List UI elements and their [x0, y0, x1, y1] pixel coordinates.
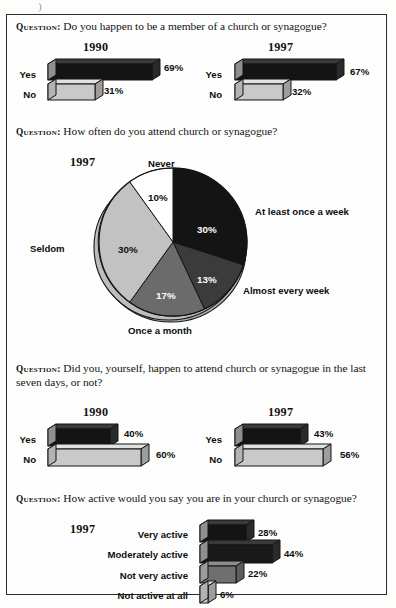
question-heading-frequency: Question: How often do you attend church…	[16, 125, 376, 139]
year-label-1997-lastsevendays: 1997	[268, 405, 293, 420]
question-text-1: Do you happen to be a member of a church…	[63, 20, 326, 32]
pie-value-never: 10%	[148, 192, 168, 203]
bar-chart-lastsevendays-1990	[38, 422, 198, 470]
bar-chart-membership-1997	[225, 58, 370, 104]
question-word-3: Question:	[16, 364, 61, 374]
bar-value-moderately-active: 44%	[284, 548, 303, 559]
scan-artifact: )	[38, 0, 52, 10]
question-heading-activity: Question: How active would you say you a…	[16, 492, 378, 506]
question-word-4: Question:	[16, 494, 61, 504]
bar-label-yes-membership-1997: Yes	[196, 69, 222, 80]
bar-value-not-active-at-all: 6%	[220, 589, 234, 600]
year-label-1990-lastsevendays: 1990	[83, 405, 108, 420]
bar-label-not-very-active: Not very active	[70, 570, 188, 581]
question-word-1: Question:	[16, 22, 61, 32]
pie-value-almost-every-week: 13%	[197, 274, 217, 285]
question-text-4: How active would you say you are in your…	[63, 492, 356, 504]
year-label-1997-membership: 1997	[268, 40, 293, 55]
bar-label-no-lastsevendays-1997: No	[196, 454, 222, 465]
question-text-3: Did you, yourself, happen to attend chur…	[16, 362, 366, 388]
bar-label-yes-lastsevendays-1990: Yes	[10, 434, 36, 445]
bar-value-no-membership-1997: 32%	[292, 86, 311, 97]
bar-label-yes-lastsevendays-1997: Yes	[196, 434, 222, 445]
pie-label-seldom: Seldom	[30, 243, 65, 254]
bar-value-yes-membership-1990: 69%	[164, 62, 183, 73]
bar-label-very-active: Very active	[70, 529, 188, 540]
bar-value-no-membership-1990: 31%	[104, 85, 123, 96]
question-heading-membership: Question: Do you happen to be a member o…	[16, 20, 376, 34]
question-text-2: How often do you attend church or synago…	[63, 125, 277, 137]
bar-label-no-membership-1990: No	[10, 89, 36, 100]
bar-value-yes-membership-1997: 67%	[350, 66, 369, 77]
year-label-1990-membership: 1990	[83, 40, 108, 55]
pie-label-never: Never	[148, 158, 175, 169]
bar-value-yes-lastsevendays-1997: 43%	[314, 428, 333, 439]
pie-value-seldom: 30%	[118, 244, 138, 255]
figure-page: ) Question: Do you happen to be a member…	[0, 0, 396, 608]
question-word-2: Question:	[16, 127, 61, 137]
bar-value-very-active: 28%	[258, 527, 277, 538]
pie-label-at-least-once-a-week: At least once a week	[255, 206, 349, 217]
bar-label-yes-membership-1990: Yes	[10, 69, 36, 80]
pie-label-almost-every-week: Almost every week	[243, 285, 329, 296]
pie-value-once-a-month: 17%	[156, 290, 176, 301]
bar-chart-lastsevendays-1997	[225, 422, 385, 470]
bar-label-moderately-active: Moderately active	[70, 549, 188, 560]
bar-chart-activity-1997	[192, 518, 322, 604]
bar-value-no-lastsevendays-1997: 56%	[340, 449, 359, 460]
pie-value-at-least-once-a-week: 30%	[197, 224, 217, 235]
pie-label-once-a-month: Once a month	[128, 325, 192, 336]
question-heading-lastsevendays: Question: Did you, yourself, happen to a…	[16, 362, 368, 390]
bar-value-not-very-active: 22%	[248, 568, 267, 579]
bar-label-no-lastsevendays-1990: No	[10, 454, 36, 465]
bar-value-no-lastsevendays-1990: 60%	[156, 449, 175, 460]
bar-label-not-active-at-all: Not active at all	[70, 590, 188, 601]
bar-label-no-membership-1997: No	[196, 89, 222, 100]
bar-value-yes-lastsevendays-1990: 40%	[124, 428, 143, 439]
